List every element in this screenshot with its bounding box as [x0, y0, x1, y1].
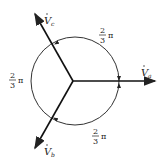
phasor-diagram: V c V a V b 2 3 π 2 3 π 2 3 π — [0, 0, 162, 161]
angle-label-bottom: 2 3 π — [92, 127, 106, 146]
phasor-vb-arrow — [35, 81, 73, 148]
label-va: V a — [141, 65, 152, 79]
svg-text:π: π — [18, 76, 23, 85]
label-vb: V b — [44, 144, 55, 158]
svg-text:c: c — [51, 20, 55, 27]
label-vc: V c — [44, 13, 55, 27]
svg-text:2: 2 — [10, 71, 15, 80]
svg-text:π: π — [108, 31, 113, 40]
svg-text:b: b — [51, 151, 55, 158]
angle-label-top: 2 3 π — [99, 26, 113, 45]
svg-text:2: 2 — [93, 127, 98, 136]
svg-text:3: 3 — [10, 81, 15, 90]
svg-text:3: 3 — [93, 137, 98, 146]
svg-text:2: 2 — [100, 26, 105, 35]
svg-text:3: 3 — [100, 36, 105, 45]
svg-text:a: a — [148, 72, 152, 79]
angle-label-left: 2 3 π — [9, 71, 23, 90]
svg-text:π: π — [101, 132, 106, 141]
